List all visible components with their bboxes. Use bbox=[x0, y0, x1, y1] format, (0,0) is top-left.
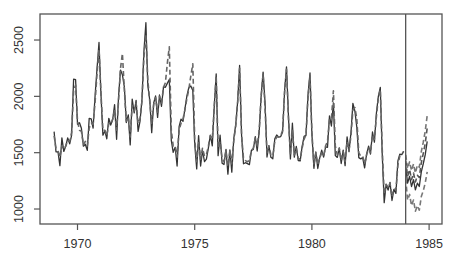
y-tick-label: 2000 bbox=[12, 82, 26, 110]
y-tick-label: 1000 bbox=[12, 195, 26, 223]
x-axis: 1970197519801985 bbox=[64, 224, 443, 251]
plot-lines bbox=[54, 23, 427, 212]
series-observed bbox=[54, 23, 404, 203]
x-tick-label: 1985 bbox=[415, 237, 443, 251]
x-tick-label: 1970 bbox=[64, 237, 92, 251]
x-tick-label: 1980 bbox=[298, 237, 326, 251]
x-tick-label: 1975 bbox=[181, 237, 209, 251]
series-fitted bbox=[54, 34, 404, 196]
series-forecast_upper bbox=[406, 116, 428, 174]
y-axis: 1000150020002500 bbox=[12, 26, 40, 223]
y-tick-label: 2500 bbox=[12, 26, 26, 54]
time-series-chart: 1970197519801985 1000150020002500 bbox=[0, 0, 453, 268]
y-tick-label: 1500 bbox=[12, 139, 26, 167]
